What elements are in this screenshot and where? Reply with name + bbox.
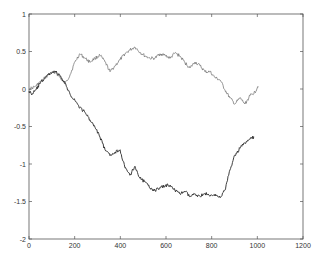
line-chart: 020040060080010001200 10.50-0.5-1-1.5-2 — [0, 0, 322, 260]
y-tick-label: 0.5 — [16, 48, 26, 55]
y-tick-label: -1 — [20, 161, 26, 168]
x-tick-label: 0 — [27, 242, 31, 249]
x-tick-label: 600 — [160, 242, 172, 249]
x-tick-label: 1000 — [250, 242, 266, 249]
series-line-2 — [29, 71, 254, 198]
x-axis-tick-labels: 020040060080010001200 — [27, 242, 311, 249]
series-layer — [29, 47, 258, 198]
x-tick-label: 400 — [114, 242, 126, 249]
y-axis-tick-labels: 10.50-0.5-1-1.5-2 — [14, 11, 26, 243]
x-tick-label: 800 — [206, 242, 218, 249]
plot-area-box — [29, 14, 303, 239]
series-line-1 — [29, 47, 258, 104]
y-tick-label: -2 — [20, 236, 26, 243]
y-tick-label: -1.5 — [14, 198, 26, 205]
axis-ticks — [29, 14, 303, 239]
y-tick-label: -0.5 — [14, 123, 26, 130]
y-tick-label: 0 — [22, 86, 26, 93]
y-tick-label: 1 — [22, 11, 26, 18]
x-tick-label: 200 — [69, 242, 81, 249]
x-tick-label: 1200 — [295, 242, 311, 249]
